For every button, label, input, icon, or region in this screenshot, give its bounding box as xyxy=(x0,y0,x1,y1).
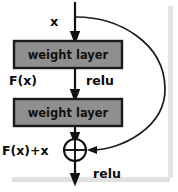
relu-out-label: relu xyxy=(93,166,121,181)
fx-label: F(x) xyxy=(9,73,37,88)
relu-mid-label: relu xyxy=(86,73,114,88)
weight-layer-2-label: weight layer xyxy=(28,106,109,120)
edge-shadow-right xyxy=(168,6,173,178)
weight-layer-1-label: weight layer xyxy=(28,48,109,62)
input-label: x xyxy=(50,14,59,29)
diagram-canvas: weight layer F(x) relu weight layer F(x)… xyxy=(0,0,178,192)
residual-block-diagram: weight layer F(x) relu weight layer F(x)… xyxy=(0,0,178,192)
sum-output-label: F(x)+x xyxy=(2,143,49,158)
edge-shadow-bottom xyxy=(12,177,170,182)
